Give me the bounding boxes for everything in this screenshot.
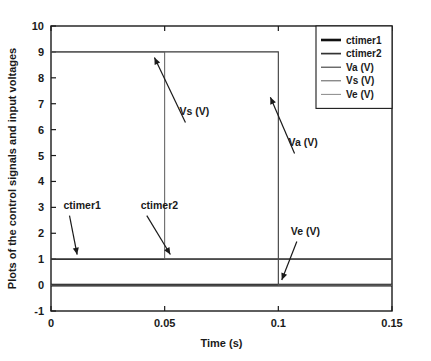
y-tick-label: 4: [38, 175, 45, 187]
y-tick-label: 7: [38, 98, 44, 110]
annotation-label: ctimer2: [141, 199, 179, 211]
x-tick-label: 0.05: [154, 317, 175, 329]
chart-figure: -101234567891000.050.10.15Time (s)Plots …: [0, 0, 431, 361]
legend-label: Vs (V): [346, 75, 374, 86]
y-tick-label: 9: [38, 46, 44, 58]
y-tick-label: 1: [38, 253, 44, 265]
legend-label: ctimer2: [346, 48, 382, 59]
legend-label: Va (V): [346, 62, 374, 73]
legend-label: ctimer1: [346, 35, 382, 46]
x-tick-label: 0.15: [381, 317, 402, 329]
x-axis-title: Time (s): [201, 337, 243, 349]
annotation-label: Ve (V): [291, 225, 320, 237]
y-tick-label: 8: [38, 72, 44, 84]
signal-plot: -101234567891000.050.10.15Time (s)Plots …: [0, 0, 431, 361]
y-tick-label: 0: [38, 279, 44, 291]
y-tick-label: 6: [38, 124, 44, 136]
y-tick-label: 2: [38, 227, 44, 239]
legend-label: Ve (V): [346, 89, 374, 100]
y-tick-label: 3: [38, 201, 44, 213]
annotation-label: Va (V): [289, 136, 318, 148]
x-tick-label: 0.1: [271, 317, 286, 329]
x-tick-label: 0: [48, 317, 54, 329]
annotation-label: Vs (V): [179, 105, 209, 117]
annotation-label: ctimer1: [64, 199, 102, 211]
y-tick-label: 5: [38, 150, 44, 162]
y-axis-title: Plots of the control signals and input v…: [6, 48, 18, 289]
y-tick-label: -1: [34, 305, 44, 317]
y-tick-label: 10: [32, 20, 44, 32]
